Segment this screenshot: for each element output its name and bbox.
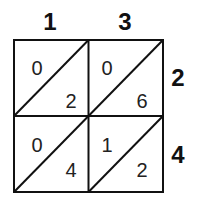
cell-r2c1-ones: 4 [65, 159, 76, 181]
right-digit-1: 2 [171, 64, 184, 91]
cell-r1c2-tens: 0 [101, 57, 112, 79]
cell-r2c2-ones: 2 [136, 159, 147, 181]
cell-r1c1-ones: 2 [65, 90, 76, 112]
top-digit-1: 1 [43, 8, 56, 35]
cell-r1c1-tens: 0 [31, 57, 42, 79]
right-digit-2: 4 [171, 141, 185, 168]
cell-r2c2-tens: 1 [101, 134, 112, 156]
lattice-diagram: 1 3 2 4 0 2 0 6 0 4 1 2 [0, 0, 198, 209]
top-digit-2: 3 [118, 8, 131, 35]
cell-r2c1-tens: 0 [31, 134, 42, 156]
cell-r1c2-ones: 6 [136, 90, 147, 112]
